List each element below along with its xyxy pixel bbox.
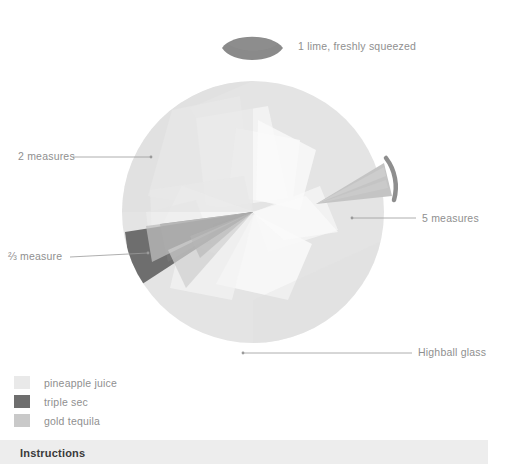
cocktail-recipe-diagram: 1 lime, freshly squeezed 2 measures ⅔ me… [0,0,505,464]
legend-item-triple-sec: triple sec [14,392,117,411]
callout-label-lime: 1 lime, freshly squeezed [298,40,416,53]
callout-label-triple-sec: ⅔ measure [8,250,62,263]
callout-label-highball-glass: Highball glass [418,346,486,359]
instructions-heading: Instructions [20,447,85,459]
legend: pineapple juice triple sec gold tequila [14,373,117,430]
callout-label-gold-tequila: 5 measures [422,212,479,225]
legend-swatch-triple-sec [14,395,30,408]
legend-swatch-pineapple-juice [14,376,30,389]
legend-label-pineapple-juice: pineapple juice [44,377,117,389]
legend-swatch-gold-tequila [14,414,30,427]
lime-wedge-icon [222,37,283,60]
legend-label-gold-tequila: gold tequila [44,415,100,427]
legend-item-gold-tequila: gold tequila [14,411,117,430]
legend-item-pineapple-juice: pineapple juice [14,373,117,392]
callout-label-pineapple-juice: 2 measures [18,150,75,163]
legend-label-triple-sec: triple sec [44,396,88,408]
